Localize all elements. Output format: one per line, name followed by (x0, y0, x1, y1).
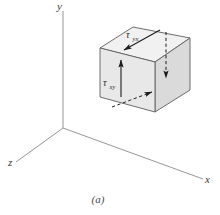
tau-yx-symbol: τ (126, 29, 130, 40)
z-axis-label: z (7, 156, 13, 168)
figure-canvas: τ yx τ xy y x z (a) (0, 0, 220, 215)
figure-caption: (a) (92, 193, 105, 206)
stress-element-figure: τ yx τ xy y x z (a) (0, 0, 220, 215)
z-axis-line (16, 128, 63, 162)
y-axis-label: y (56, 0, 62, 12)
stress-cube (100, 27, 190, 112)
tau-xy-symbol: τ (103, 77, 107, 88)
x-axis-label: x (204, 173, 210, 185)
tau-yx-subscript: yx (132, 35, 139, 42)
tau-xy-subscript: xy (109, 83, 116, 90)
x-axis-line (63, 128, 203, 179)
